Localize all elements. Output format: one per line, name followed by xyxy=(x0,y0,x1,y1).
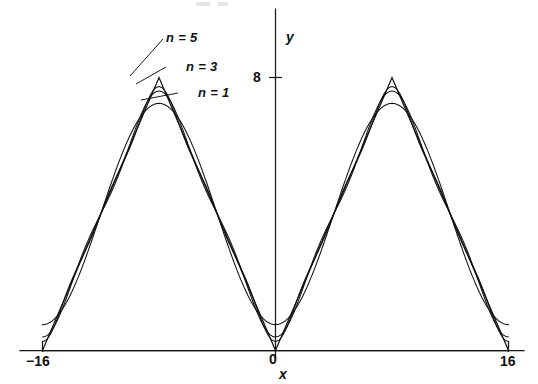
x-tick-label-minus16: −16 xyxy=(26,354,50,368)
annotation-label-n5: n = 5 xyxy=(166,31,198,44)
x-tick-label-16: 16 xyxy=(500,354,516,368)
y-tick-label-8: 8 xyxy=(253,70,261,84)
fourier-series-plot xyxy=(0,0,538,384)
annotation-label-n3: n = 3 xyxy=(186,60,218,73)
figure-container: n = 5 n = 3 n = 1 y x 8 0 −16 16 xyxy=(0,0,538,384)
y-axis-label: y xyxy=(286,30,294,44)
leader-lines-group xyxy=(130,39,178,100)
scan-artifact xyxy=(218,2,228,6)
annotation-label-n1: n = 1 xyxy=(198,86,230,99)
x-tick-label-0: 0 xyxy=(269,352,277,366)
leader-line-n5 xyxy=(130,39,163,76)
x-axis-label: x xyxy=(279,367,287,381)
leader-line-n1 xyxy=(141,93,178,100)
leader-line-n3 xyxy=(136,67,166,84)
scan-artifact xyxy=(196,2,210,6)
